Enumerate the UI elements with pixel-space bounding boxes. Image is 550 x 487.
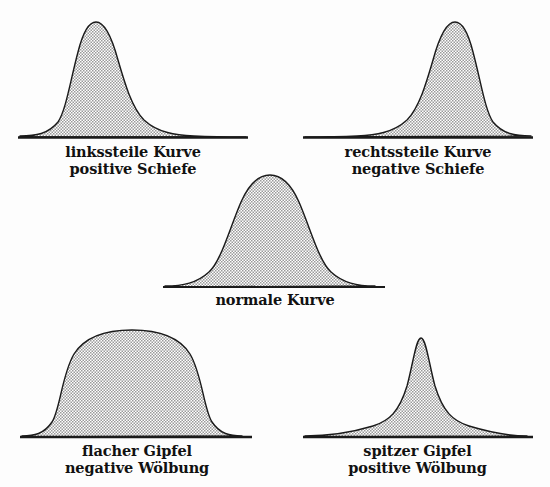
caption-right-skew-line1: rechtssteile Kurve bbox=[293, 144, 543, 161]
caption-platykurtic-line1: flacher Gipfel bbox=[12, 443, 262, 460]
left-skew-curve-area bbox=[20, 22, 246, 137]
platykurtic-curve-svg bbox=[12, 322, 262, 444]
right-skew-curve-svg bbox=[293, 10, 543, 145]
caption-leptokurtic: spitzer Gipfel positive Wölbung bbox=[295, 443, 540, 476]
caption-platykurtic: flacher Gipfel negative Wölbung bbox=[12, 443, 262, 476]
caption-left-skew-line1: linkssteile Kurve bbox=[8, 144, 258, 161]
normal-curve-area bbox=[165, 175, 375, 287]
curve-panel-left-skew bbox=[8, 10, 258, 145]
distribution-shapes-figure: linkssteile Kurve positive Schiefe recht… bbox=[0, 0, 550, 487]
curve-panel-normal bbox=[155, 168, 395, 293]
leptokurtic-curve-area bbox=[305, 338, 527, 437]
caption-normal: normale Kurve bbox=[155, 292, 395, 309]
left-skew-curve-svg bbox=[8, 10, 258, 145]
curve-panel-right-skew bbox=[293, 10, 543, 145]
curve-panel-platykurtic bbox=[12, 322, 262, 444]
platykurtic-curve-area bbox=[22, 330, 242, 437]
leptokurtic-curve-svg bbox=[295, 322, 540, 444]
caption-platykurtic-line2: negative Wölbung bbox=[12, 460, 262, 477]
caption-leptokurtic-line2: positive Wölbung bbox=[295, 460, 540, 477]
caption-leptokurtic-line1: spitzer Gipfel bbox=[295, 443, 540, 460]
caption-normal-line1: normale Kurve bbox=[155, 292, 395, 309]
curve-panel-leptokurtic bbox=[295, 322, 540, 444]
right-skew-curve-area bbox=[305, 22, 531, 137]
normal-curve-svg bbox=[155, 168, 395, 293]
